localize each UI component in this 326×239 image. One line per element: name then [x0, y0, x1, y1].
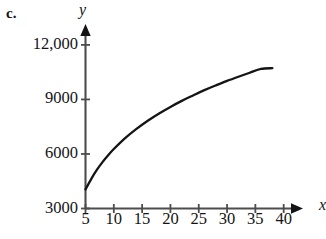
x-tick-label: 40	[264, 211, 304, 228]
y-tick-label: 6000	[45, 145, 78, 162]
axes-group	[80, 24, 303, 214]
y-tick-label: 12,000	[33, 36, 78, 53]
data-series-curve	[86, 68, 273, 189]
y-tick-label: 9000	[45, 90, 78, 107]
y-axis-arrowhead	[80, 24, 90, 36]
